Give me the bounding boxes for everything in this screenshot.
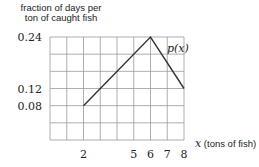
y-tick-label: 0.24 — [18, 31, 43, 44]
y-tick-label: 0.12 — [18, 83, 43, 96]
y-tick-label: 0.08 — [18, 100, 43, 113]
x-tick-label: 6 — [147, 148, 154, 161]
chart-plot: 0.240.120.0825678x (tons of fish)p(x) — [0, 0, 259, 167]
x-tick-label: 8 — [181, 148, 188, 161]
x-tick-label: 2 — [80, 148, 87, 161]
x-axis-label: x (tons of fish) — [195, 137, 256, 150]
series-annotation-label: p(x) — [167, 42, 189, 55]
x-tick-label: 5 — [130, 148, 137, 161]
x-tick-label: 7 — [164, 148, 171, 161]
